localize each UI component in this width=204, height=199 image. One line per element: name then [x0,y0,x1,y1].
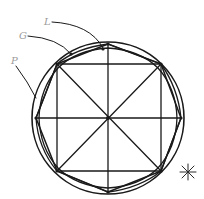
label-G: G [19,30,27,41]
label-P: P [10,55,18,66]
leader-line-G [28,36,71,54]
asterisk-marker [180,164,196,180]
leader-line-P [16,66,36,98]
geometric-diagram: L G P [0,0,204,199]
label-L: L [43,16,51,27]
